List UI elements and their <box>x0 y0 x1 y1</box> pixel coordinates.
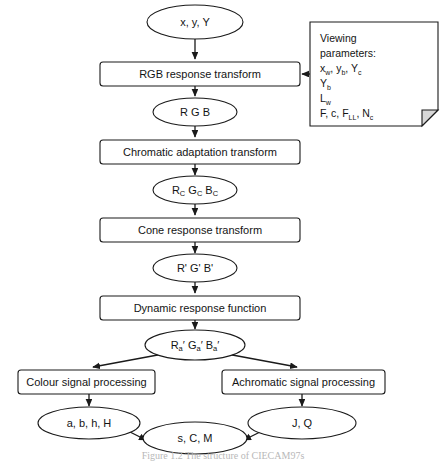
node-rgb-a-prime[interactable]: Ra′ Ga′ Ba′ <box>145 330 245 360</box>
node-cone-response-transform[interactable]: Cone response transform <box>100 218 300 242</box>
node-JQ[interactable]: J, Q <box>248 407 356 439</box>
node-colour-signal-processing[interactable]: Colour signal processing <box>18 370 155 394</box>
node-label-rgb-c: RC GC BC <box>172 184 219 198</box>
node-label-colour-signal-processing: Colour signal processing <box>26 376 146 388</box>
node-label-abhH: a, b, h, H <box>67 417 112 429</box>
note-fold-corner-icon <box>422 110 438 126</box>
flowchart-canvas: x, y, Y RGB response transform R G B Chr… <box>0 0 446 464</box>
node-label-rgb: R G B <box>180 106 210 118</box>
viewing-parameters-note[interactable]: Viewing parameters: xw, yb, Yc Yb Lw F, … <box>310 22 438 126</box>
node-label-chromatic-adaptation-transform: Chromatic adaptation transform <box>123 146 277 158</box>
node-rgb-response-transform[interactable]: RGB response transform <box>100 62 300 86</box>
node-label-sCM: s, C, M <box>178 432 213 444</box>
edge-rgb-a-prime-to-achromatic-signal <box>227 354 297 367</box>
figure-caption: Figure 1.2 The structure of CIECAM97s <box>0 450 446 464</box>
note-line-viewing: Viewing <box>320 32 357 44</box>
flowchart-diagram: x, y, Y RGB response transform R G B Chr… <box>0 0 446 464</box>
node-chromatic-adaptation-transform[interactable]: Chromatic adaptation transform <box>100 140 300 164</box>
note-line-F-c-FLL-Nc: F, c, FLL, Nc <box>320 107 374 121</box>
node-abhH[interactable]: a, b, h, H <box>38 407 140 439</box>
node-input-xyY[interactable]: x, y, Y <box>147 5 243 39</box>
node-label-achromatic-signal-processing: Achromatic signal processing <box>232 376 375 388</box>
node-label-rgb-response-transform: RGB response transform <box>139 68 261 80</box>
node-label-dynamic-response-function: Dynamic response function <box>134 302 267 314</box>
edge-rgb-a-prime-to-colour-signal <box>93 354 163 367</box>
node-label-JQ: J, Q <box>292 417 313 429</box>
node-dynamic-response-function[interactable]: Dynamic response function <box>100 296 300 320</box>
node-rgb-c[interactable]: RC GC BC <box>153 176 237 204</box>
node-rgb[interactable]: R G B <box>153 98 237 126</box>
node-label-cone-response-transform: Cone response transform <box>138 224 262 236</box>
note-line-parameters: parameters: <box>320 47 376 59</box>
node-achromatic-signal-processing[interactable]: Achromatic signal processing <box>222 370 385 394</box>
node-label-rgb-prime: R' G' B' <box>177 262 213 274</box>
node-label-input-xyY: x, y, Y <box>180 16 210 28</box>
node-label-rgb-a-prime: Ra′ Ga′ Ba′ <box>171 339 220 353</box>
node-rgb-prime[interactable]: R' G' B' <box>153 254 237 282</box>
